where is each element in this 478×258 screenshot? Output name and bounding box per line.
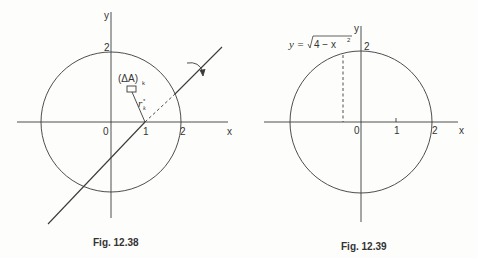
figures-canvas: y 2 0 1 2 x (ΔA) k r * k Fig. 12.38 y 2 … <box>0 0 478 258</box>
area-element-label: (ΔA) <box>118 73 138 84</box>
figure-right <box>264 26 458 222</box>
curve-label-lhs: y = <box>288 38 307 50</box>
caption-left: Fig. 12.38 <box>93 237 139 248</box>
tick-x1-right: 1 <box>394 125 400 136</box>
rotation-axis-solid-upper <box>175 47 222 94</box>
radius-sup: * <box>143 98 146 104</box>
y-axis-label-right: y <box>354 23 359 34</box>
tick-x2-left: 2 <box>180 126 186 137</box>
figure-right-labels: y 2 0 1 2 x y = 4 − x 2 Fig. 12.39 <box>288 23 464 252</box>
arrowhead <box>200 69 205 76</box>
curve-label-exponent: 2 <box>347 37 351 43</box>
tick-y2-right: 2 <box>364 41 370 52</box>
tick-origin-left: 0 <box>103 126 109 137</box>
figure-left <box>17 12 228 224</box>
x-axis-label-left: x <box>227 126 232 137</box>
y-axis-label-left: y <box>104 10 109 21</box>
area-element-subscript: k <box>142 80 146 86</box>
area-element-box <box>127 86 136 92</box>
tick-x1-left: 1 <box>143 126 149 137</box>
x-axis-label-right: x <box>459 125 464 136</box>
rotation-axis-dashed <box>145 94 175 122</box>
tick-x2-right: 2 <box>432 125 438 136</box>
caption-right: Fig. 12.39 <box>341 241 387 252</box>
tick-origin-right: 0 <box>354 125 360 136</box>
radius-sub: k <box>143 105 146 111</box>
figure-left-labels: y 2 0 1 2 x (ΔA) k r * k Fig. 12.38 <box>93 10 232 248</box>
tick-y2-left: 2 <box>104 42 110 53</box>
curve-label-radicand: 4 − x <box>314 39 336 50</box>
